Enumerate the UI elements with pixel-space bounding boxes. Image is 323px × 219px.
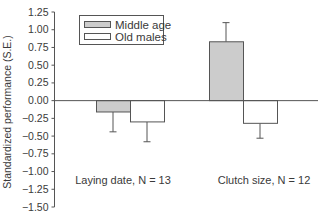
legend-swatch-middle-age — [85, 22, 111, 28]
bar-old-males — [131, 101, 165, 122]
y-axis-title: Standardized performance (S.E.) — [1, 35, 13, 189]
legend-label-middle-age: Middle age — [115, 19, 171, 31]
y-tick-label: −1.25 — [22, 183, 49, 195]
bar-middle-age — [97, 101, 131, 112]
category-label: Laying date, N = 13 — [75, 174, 171, 186]
y-tick-label: 0.25 — [28, 76, 49, 88]
legend: Middle age Old males — [80, 16, 172, 45]
y-tick-label: −1.50 — [22, 201, 49, 213]
bar-middle-age — [210, 42, 244, 101]
zero-line — [55, 101, 319, 105]
y-tick-label: −0.75 — [22, 147, 49, 159]
legend-label-old-males: Old males — [115, 31, 167, 43]
category-labels: Laying date, N = 13Clutch size, N = 12 — [75, 174, 310, 186]
y-tick-label: −1.00 — [22, 165, 49, 177]
y-tick-label: 0.00 — [28, 94, 49, 106]
y-tick-label: −0.25 — [22, 112, 49, 124]
y-tick-label: 0.50 — [28, 59, 49, 71]
legend-swatch-old-males — [85, 34, 111, 40]
y-axis: 1.251.000.750.500.250.00−0.25−0.50−0.75−… — [22, 6, 55, 213]
bar-chart: 1.251.000.750.500.250.00−0.25−0.50−0.75−… — [0, 0, 323, 219]
y-tick-label: 0.75 — [28, 41, 49, 53]
y-tick-label: 1.00 — [28, 23, 49, 35]
category-label: Clutch size, N = 12 — [218, 174, 311, 186]
bar-old-males — [244, 101, 278, 124]
y-tick-label: −0.50 — [22, 130, 49, 142]
y-tick-label: 1.25 — [28, 6, 49, 18]
